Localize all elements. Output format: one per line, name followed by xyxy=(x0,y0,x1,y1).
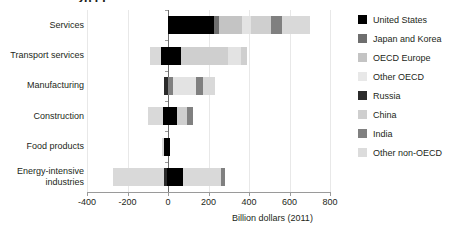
bar-row xyxy=(87,138,330,156)
x-axis-tick-label: 800 xyxy=(322,197,337,207)
bar-segment xyxy=(173,77,196,95)
bar-segment xyxy=(164,138,170,156)
bar-segment xyxy=(187,107,192,125)
bar-segment xyxy=(113,168,163,186)
bar-row xyxy=(87,16,330,34)
legend-item-label: Other non-OECD xyxy=(373,148,442,158)
bar-segment xyxy=(219,16,242,34)
bar-segment xyxy=(271,16,282,34)
legend-swatch-icon xyxy=(358,91,367,100)
legend-item-label: United States xyxy=(373,15,427,25)
chart-legend: United StatesJapan and KoreaOECD EuropeO… xyxy=(358,10,457,162)
x-axis-tick xyxy=(290,192,291,196)
legend-item-label: OECD Europe xyxy=(373,53,431,63)
legend-item[interactable]: United States xyxy=(358,10,457,29)
bar-segment xyxy=(282,16,309,34)
x-axis-tick xyxy=(168,192,169,196)
bar-segment xyxy=(203,77,215,95)
bar-segment xyxy=(242,16,251,34)
category-label: Energy-intensive industries xyxy=(0,166,84,188)
category-label: Services xyxy=(0,20,84,31)
x-axis-tick-label: -400 xyxy=(78,197,96,207)
x-axis-tick xyxy=(128,192,129,196)
x-axis-tick xyxy=(249,192,250,196)
x-axis-tick-label: 600 xyxy=(282,197,297,207)
legend-item[interactable]: Japan and Korea xyxy=(358,29,457,48)
legend-item-label: Other OECD xyxy=(373,72,424,82)
bar-segment xyxy=(148,107,163,125)
legend-item-label: India xyxy=(373,129,393,139)
category-label: Transport services xyxy=(0,50,84,61)
bar-segment xyxy=(183,168,221,186)
bar-segment xyxy=(241,47,247,65)
bar-segment xyxy=(228,47,241,65)
bar-segment xyxy=(196,77,202,95)
x-axis-tick-label: 400 xyxy=(241,197,256,207)
legend-swatch-icon xyxy=(358,129,367,138)
bar-segment xyxy=(168,16,214,34)
bar-segment xyxy=(163,107,177,125)
gridline xyxy=(290,10,291,192)
bar-segment xyxy=(150,47,161,65)
x-axis-tick-label: 200 xyxy=(201,197,216,207)
gridline xyxy=(87,10,88,192)
legend-item-label: Japan and Korea xyxy=(373,34,442,44)
legend-item[interactable]: Other non-OECD xyxy=(358,143,457,162)
legend-item[interactable]: China xyxy=(358,105,457,124)
legend-swatch-icon xyxy=(358,110,367,119)
y-axis-tick xyxy=(165,131,168,132)
legend-item[interactable]: Russia xyxy=(358,86,457,105)
legend-swatch-icon xyxy=(358,34,367,43)
gridline xyxy=(330,10,331,192)
x-axis-tick xyxy=(87,192,88,196)
legend-item[interactable]: Other OECD xyxy=(358,67,457,86)
bar-segment xyxy=(251,16,271,34)
x-axis-tick-label: -200 xyxy=(118,197,136,207)
x-axis-tick-label: 0 xyxy=(165,197,170,207)
category-label: Manufacturing xyxy=(0,80,84,91)
bar-row xyxy=(87,47,330,65)
legend-swatch-icon xyxy=(358,53,367,62)
bar-row xyxy=(87,77,330,95)
bar-segment xyxy=(177,107,187,125)
y-axis-tick xyxy=(165,10,168,11)
bar-segment xyxy=(221,168,225,186)
gridline xyxy=(249,10,250,192)
legend-swatch-icon xyxy=(358,15,367,24)
category-label: Construction xyxy=(0,111,84,122)
legend-item[interactable]: India xyxy=(358,124,457,143)
plot-area xyxy=(87,10,330,192)
chart-container: 2011 -400-2000200400600800 ServicesTrans… xyxy=(0,0,457,232)
gridline xyxy=(209,10,210,192)
chart-title-fragment: 2011 xyxy=(76,0,108,2)
gridline xyxy=(128,10,129,192)
y-axis-tick xyxy=(165,40,168,41)
y-axis-tick xyxy=(165,71,168,72)
bar-row xyxy=(87,168,330,186)
category-label: Food products xyxy=(0,141,84,152)
x-axis-title: Billion dollars (2011) xyxy=(232,213,313,223)
y-axis-tick xyxy=(165,101,168,102)
legend-item-label: Russia xyxy=(373,91,401,101)
zero-line xyxy=(168,10,169,192)
bar-segment xyxy=(167,168,182,186)
bar-segment xyxy=(161,47,181,65)
legend-item-label: China xyxy=(373,110,397,120)
x-axis-tick xyxy=(330,192,331,196)
legend-item[interactable]: OECD Europe xyxy=(358,48,457,67)
y-axis-tick xyxy=(165,162,168,163)
bar-row xyxy=(87,107,330,125)
legend-swatch-icon xyxy=(358,72,367,81)
legend-swatch-icon xyxy=(358,148,367,157)
x-axis-tick xyxy=(209,192,210,196)
bar-segment xyxy=(181,47,228,65)
